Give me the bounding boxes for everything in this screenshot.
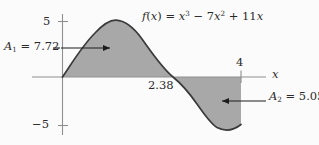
equation-plus: + — [225, 9, 242, 23]
area2-leader-arrow — [222, 98, 266, 104]
shaded-area-a2 — [173, 77, 241, 130]
equation-term3-base: x — [257, 9, 264, 23]
equation-label: f(x) = x3 − 7x2 + 11x — [142, 10, 263, 22]
equation-term3-coef: 11 — [242, 9, 257, 23]
shaded-area-a1 — [63, 20, 174, 77]
area1-annotation: A1 = 7.72 — [4, 41, 59, 53]
area2-equals: = — [282, 89, 299, 103]
y-axis-tick-label-5: 5 — [43, 16, 50, 28]
y-axis-tick-label-neg5: −5 — [32, 119, 49, 131]
root-label: 2.38 — [148, 80, 174, 92]
equation-term2-coef: 7 — [207, 9, 214, 23]
area2-value: 5.05 — [299, 89, 319, 103]
area2-annotation: A2 = 5.05 — [269, 91, 319, 103]
equation-minus: − — [190, 9, 207, 23]
x-axis-tick-label-4: 4 — [236, 57, 243, 69]
integral-area-figure: f(x) = x3 − 7x2 + 11x 5 −5 4 x 2.38 A1 =… — [0, 0, 319, 145]
equation-equals: = — [162, 9, 179, 23]
area1-value: 7.72 — [34, 39, 60, 53]
x-axis-label: x — [272, 69, 279, 81]
area1-equals: = — [17, 39, 34, 53]
